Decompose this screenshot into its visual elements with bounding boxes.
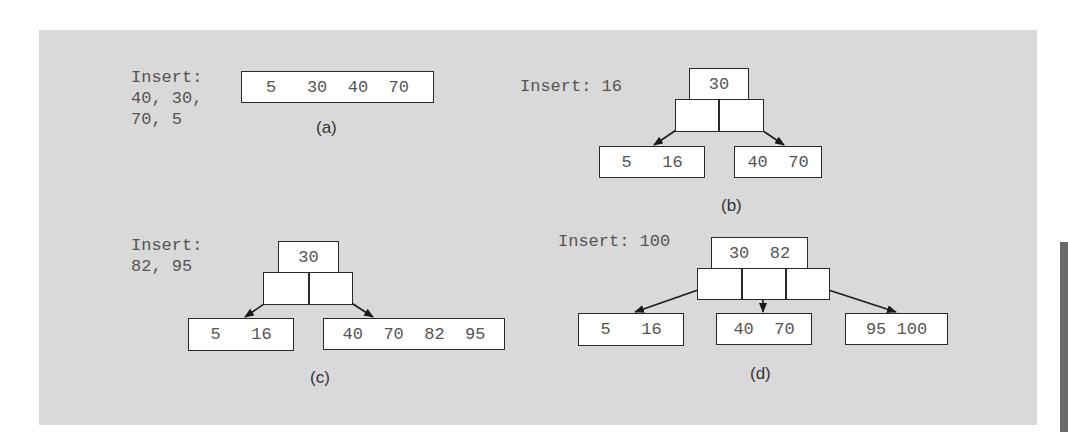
tree-a-root-node: 5 30 40 70 (241, 71, 434, 103)
insert-line: 70, 5 (131, 109, 202, 130)
pointer-divider (785, 269, 787, 299)
caption-b: (b) (721, 196, 742, 216)
tree-d-pointer-row (697, 268, 830, 300)
tree-d-root-node: 30 82 (711, 237, 808, 269)
pointer-divider (308, 273, 310, 304)
insert-line: Insert: (131, 235, 202, 256)
page-edge-bar (1060, 242, 1068, 432)
insert-label-b: Insert: 16 (520, 76, 622, 97)
pointer-divider (718, 100, 720, 131)
insert-label-d: Insert: 100 (558, 231, 670, 252)
insert-line: 40, 30, (131, 88, 202, 109)
tree-d-leaf-middle: 40 70 (716, 313, 812, 345)
caption-d: (d) (750, 364, 771, 384)
tree-c-pointer-row (263, 272, 353, 305)
insert-line: 82, 95 (131, 256, 202, 277)
tree-b-leaf-left: 5 16 (599, 146, 705, 178)
insert-label-a: Insert:40, 30,70, 5 (131, 67, 202, 130)
pointer-divider (741, 269, 743, 299)
tree-b-leaf-right: 40 70 (734, 146, 822, 178)
tree-c-leaf-right: 40 70 82 95 (323, 318, 505, 350)
tree-d-leaf-left: 5 16 (578, 313, 684, 346)
caption-a: (a) (316, 118, 337, 138)
tree-b-root-node: 30 (689, 68, 749, 100)
caption-c: (c) (310, 368, 330, 388)
insert-line: Insert: (131, 67, 202, 88)
tree-c-root-node: 30 (278, 241, 339, 273)
tree-d-leaf-right: 95 100 (845, 313, 948, 345)
insert-label-c: Insert:82, 95 (131, 235, 202, 277)
tree-b-pointer-row (675, 99, 764, 132)
tree-c-leaf-left: 5 16 (188, 318, 294, 351)
